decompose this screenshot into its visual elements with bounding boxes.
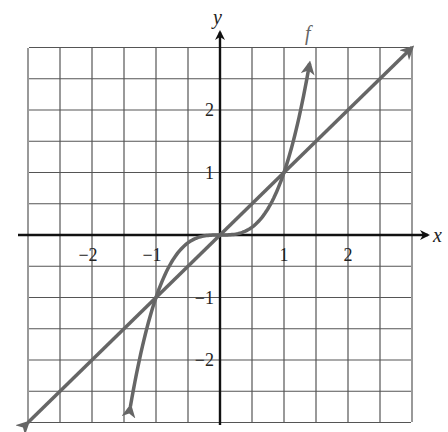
x-tick-label: −2 <box>78 245 97 265</box>
y-axis-label: y <box>211 6 222 29</box>
y-tick-label: −1 <box>195 288 214 308</box>
x-tick-label: −1 <box>142 245 161 265</box>
x-axis-label: x <box>432 224 442 246</box>
y-tick-label: −2 <box>195 350 214 370</box>
x-tick-label: 1 <box>280 245 289 265</box>
y-tick-label: 1 <box>205 163 214 183</box>
curve-f-label: f <box>305 22 313 45</box>
y-tick-label: 2 <box>205 100 214 120</box>
x-tick-labels: −2−112 <box>78 245 352 265</box>
x-tick-label: 2 <box>344 245 353 265</box>
function-graph: −2−112 −2−112 x y f <box>0 0 448 432</box>
